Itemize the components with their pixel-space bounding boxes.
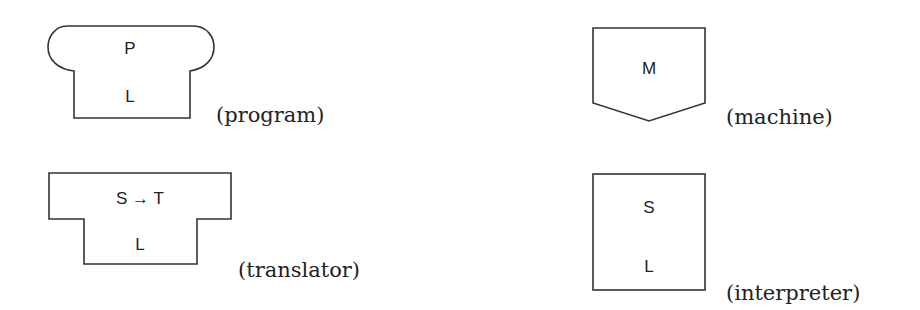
program-bottom-label: L	[125, 87, 134, 106]
translator-caption: (translator)	[238, 258, 360, 282]
translator-diagram: S → T L (translator)	[49, 173, 360, 282]
translator-bottom-label: L	[135, 235, 144, 254]
machine-caption: (machine)	[726, 105, 833, 129]
tombstone-diagram: P L (program) S → T L (translator) M (ma…	[0, 0, 920, 310]
interpreter-diagram: S L (interpreter)	[593, 174, 860, 305]
program-diagram: P L (program)	[48, 26, 324, 127]
program-caption: (program)	[216, 103, 324, 127]
interpreter-top-label: S	[643, 198, 654, 217]
translator-top-label: S → T	[116, 189, 164, 208]
interpreter-bottom-label: L	[644, 257, 653, 276]
machine-diagram: M (machine)	[593, 28, 833, 129]
machine-label: M	[642, 59, 656, 78]
interpreter-caption: (interpreter)	[726, 281, 860, 305]
program-top-label: P	[124, 39, 135, 58]
